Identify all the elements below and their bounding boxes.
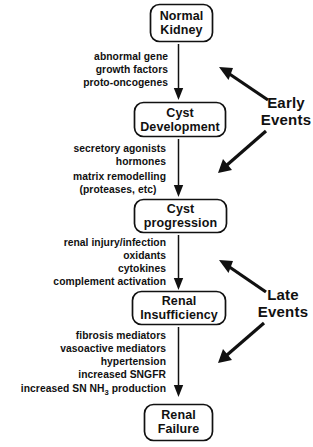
flow-arrow-cyst-development-to-progression xyxy=(174,139,183,197)
mediator-line: oxidants xyxy=(123,250,166,261)
flow-arrow-cyst-progression-to-renal-insufficiency xyxy=(174,235,183,290)
phase-arrow-head xyxy=(219,260,233,273)
stage-label-line: Insufficiency xyxy=(140,308,218,322)
mediator-line: renal injury/infection xyxy=(64,237,166,248)
mediator-line: abnormal gene xyxy=(94,51,168,62)
mediator-group-cyst-development: abnormal gene growth factors proto-oncog… xyxy=(83,51,168,88)
phase-group-early-events: Early Events xyxy=(218,67,311,173)
ammonia-suffix: production xyxy=(109,383,166,394)
mediator-group-renal-failure: fibrosis mediators vasoactive mediators … xyxy=(21,330,167,397)
mediator-line: hormones xyxy=(116,156,166,167)
mediator-line: fibrosis mediators xyxy=(76,330,166,341)
flow-arrow-head xyxy=(174,278,183,290)
mediator-line: increased SNGFR xyxy=(78,369,166,380)
flow-arrow-normal-to-cyst-development xyxy=(174,44,183,100)
flow-arrow-head xyxy=(174,385,183,397)
stage-label-line: Normal xyxy=(160,9,204,23)
mediator-group-renal-insufficiency: renal injury/infection oxidants cytokine… xyxy=(53,237,166,287)
stage-label-line: Failure xyxy=(158,422,200,436)
ammonia-prefix: increased SN NH xyxy=(21,383,105,394)
mediator-group-cyst-progression: secretory agonists hormones matrix remod… xyxy=(73,143,166,195)
phase-group-late-events: Late Events xyxy=(218,260,308,363)
mediator-line: (proteases, etc) xyxy=(80,184,157,195)
stage-node-cyst-development[interactable]: Cyst Development xyxy=(135,103,226,137)
mediator-line: vasoactive mediators xyxy=(60,343,166,354)
mediator-line: hypertension xyxy=(101,356,166,367)
stage-label-line: Kidney xyxy=(160,23,202,37)
flow-arrow-renal-insufficiency-to-failure xyxy=(174,327,183,397)
stage-label-line: Cyst xyxy=(166,106,194,120)
flow-arrow-head xyxy=(174,88,183,100)
mediator-line: secretory agonists xyxy=(74,143,167,154)
mediator-line-ammonia: increased SN NH3 production xyxy=(21,383,166,397)
phase-arrow-late-lower xyxy=(218,323,264,363)
mediator-line: proto-oncogenes xyxy=(83,77,168,88)
mediator-line: complement activation xyxy=(53,276,166,287)
phase-arrow-early-lower xyxy=(218,131,266,173)
mediator-line: growth factors xyxy=(96,64,168,75)
flowchart-diagram: Normal Kidney abnormal gene growth facto… xyxy=(0,0,313,447)
stage-label-line: progression xyxy=(144,216,217,230)
stage-node-renal-insufficiency[interactable]: Renal Insufficiency xyxy=(133,292,226,325)
stage-node-cyst-progression[interactable]: Cyst progression xyxy=(135,200,227,233)
stage-label-line: Development xyxy=(140,120,220,134)
flowchart-canvas: Normal Kidney abnormal gene growth facto… xyxy=(0,0,313,447)
phase-arrow-head xyxy=(219,67,233,80)
phase-arrow-shaft xyxy=(227,131,266,165)
stage-label-line: Renal xyxy=(162,294,197,308)
phase-arrow-shaft xyxy=(228,73,268,100)
flow-arrow-head xyxy=(174,185,183,197)
stage-node-renal-failure[interactable]: Renal Failure xyxy=(145,405,213,441)
stage-node-normal-kidney[interactable]: Normal Kidney xyxy=(151,5,213,42)
phase-label-line: Events xyxy=(261,111,311,128)
stage-label-line: Cyst xyxy=(167,202,195,216)
stage-label-line: Renal xyxy=(161,408,196,422)
phase-arrow-shaft xyxy=(227,323,264,355)
mediator-line: matrix remodelling xyxy=(73,171,166,182)
mediator-line: cytokines xyxy=(118,263,166,274)
phase-label-line: Late xyxy=(267,286,299,303)
phase-label-line: Early xyxy=(267,94,305,111)
phase-arrow-early-upper xyxy=(219,67,268,100)
phase-arrow-shaft xyxy=(228,266,266,292)
phase-arrow-late-upper xyxy=(219,260,266,292)
phase-label-line: Events xyxy=(258,303,308,320)
